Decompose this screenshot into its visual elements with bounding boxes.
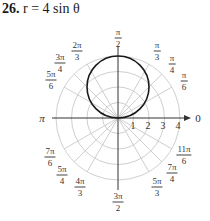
axis-label-0: 0	[195, 112, 201, 124]
angle-label-11pi-6: 11π6	[176, 145, 191, 166]
angle-label-7pi-6: 7π6	[44, 147, 55, 168]
tick-2: 2	[146, 120, 151, 131]
tick-4: 4	[176, 120, 181, 131]
angle-label-4pi-3: 4π3	[74, 177, 85, 198]
angle-label-5pi-4: 5π4	[56, 165, 67, 186]
tick-1: 1	[131, 120, 136, 131]
angle-label-pi-4: π4	[169, 54, 176, 75]
tick-3: 3	[161, 120, 166, 131]
angle-label-3pi-2: 3π2	[112, 192, 123, 213]
arrow-head-icon	[184, 115, 191, 121]
angle-label-pi-6: π6	[181, 71, 188, 92]
axis-label-pi: π	[39, 112, 45, 124]
angle-label-pi-3: π3	[154, 41, 161, 62]
angle-label-2pi-3: 2π3	[71, 41, 82, 62]
angle-label-pi-2: π2	[115, 28, 122, 49]
angle-label-7pi-4: 7π4	[166, 163, 177, 184]
polar-plot	[0, 0, 210, 221]
angle-label-5pi-6: 5π6	[45, 70, 56, 91]
angle-label-5pi-3: 5π3	[151, 177, 162, 198]
